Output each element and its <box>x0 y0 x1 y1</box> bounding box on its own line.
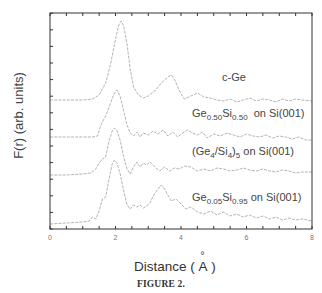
figure-caption: FIGURE 2. <box>0 279 322 289</box>
x-tick-label: 0 <box>48 234 52 241</box>
angstrom-ring: ° <box>201 250 205 261</box>
x-axis-label: Distance ( A° ) <box>134 259 216 274</box>
series-label-0: c-Ge <box>222 71 246 83</box>
angstrom-unit: A° <box>199 259 208 274</box>
x-tick-label: 8 <box>310 234 314 241</box>
series-label-1: Ge0.50Si0.50 on Si(001) <box>192 107 305 122</box>
x-tick-label: 2 <box>114 234 118 241</box>
x-tick-label: 6 <box>245 234 249 241</box>
series-line-0 <box>50 21 312 102</box>
series-label-2: (Ge4/Si4)5 on Si(001) <box>192 145 294 160</box>
y-axis-label: F(r) (arb. units) <box>11 56 26 176</box>
x-tick-label: 4 <box>179 234 183 241</box>
series-label-3: Ge0.05Si0.95 on Si(001) <box>192 191 301 206</box>
x-axis-label-text: Distance ( <box>134 259 199 274</box>
